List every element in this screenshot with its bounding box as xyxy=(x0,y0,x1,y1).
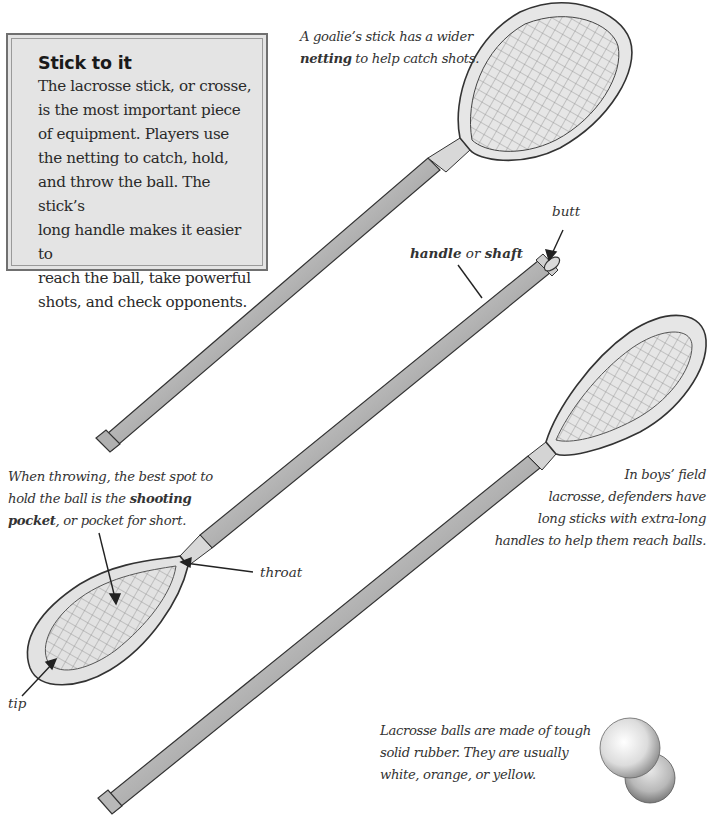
term-pocket: pocket xyxy=(8,513,56,528)
label-handle-shaft: handle or shaft xyxy=(410,245,523,261)
caption-defenders: In boys’ field lacrosse, defenders have … xyxy=(495,464,706,552)
sidebar-box: Stick to it The lacrosse stick, or cross… xyxy=(6,33,268,271)
caption-shooting-pocket: When throwing, the best spot to hold the… xyxy=(8,466,213,532)
book-page: Stick to it The lacrosse stick, or cross… xyxy=(0,0,716,826)
term-shooting: shooting xyxy=(130,491,192,506)
caption-goalie: A goalie’s stick has a wider netting to … xyxy=(300,26,479,70)
label-throat: throat xyxy=(260,564,302,580)
lacrosse-balls xyxy=(600,718,675,803)
sidebar-title: Stick to it xyxy=(38,53,252,73)
term-netting: netting xyxy=(300,51,352,66)
label-butt: butt xyxy=(552,203,580,219)
caption-balls: Lacrosse balls are made of tough solid r… xyxy=(380,720,591,786)
sidebar-body: The lacrosse stick, or crosse, is the mo… xyxy=(38,74,252,314)
label-tip: tip xyxy=(8,695,26,711)
